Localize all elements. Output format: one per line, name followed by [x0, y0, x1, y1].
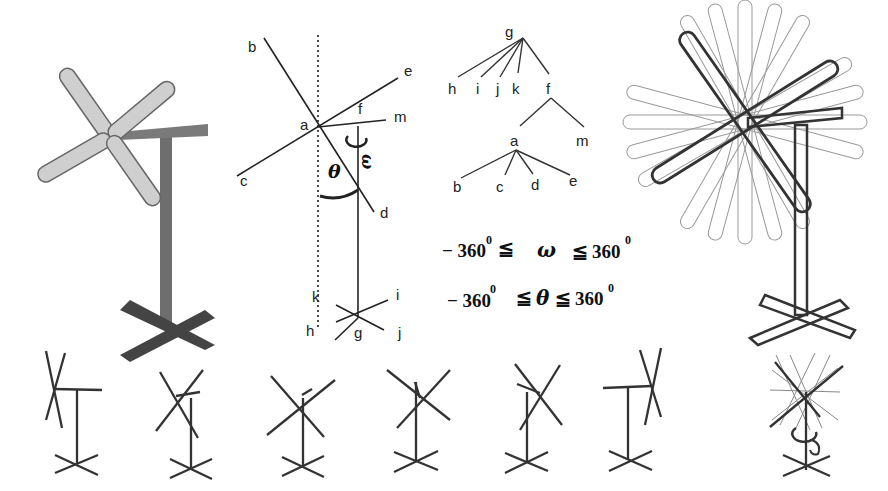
hierarchy-tree: [458, 38, 584, 178]
svg-text:360: 360: [592, 241, 621, 262]
svg-text:i: i: [396, 286, 399, 303]
svg-text:a: a: [300, 116, 309, 133]
figure-canvas: b e a f m c d ω θ k i h g j g h i j k f …: [0, 0, 888, 491]
pose-2: [156, 370, 212, 479]
hierarchy-labels: g h i j k f a m b c d e: [448, 23, 589, 195]
svg-text:h: h: [448, 80, 456, 97]
svg-text:≦: ≦: [516, 287, 532, 308]
svg-text:h: h: [306, 322, 314, 339]
svg-text:m: m: [394, 108, 407, 125]
svg-text:ω: ω: [537, 238, 556, 262]
svg-text:≦: ≦: [572, 241, 588, 262]
svg-text:j: j: [397, 324, 401, 341]
svg-text:g: g: [354, 324, 362, 341]
rotation-overlay: [623, 0, 867, 345]
svg-text:0: 0: [486, 233, 492, 247]
svg-text:≦: ≦: [498, 238, 514, 259]
svg-text:f: f: [546, 80, 551, 97]
svg-text:i: i: [476, 80, 479, 97]
svg-text:0: 0: [490, 282, 496, 296]
svg-text:c: c: [240, 172, 248, 189]
pose-overlay-final: [770, 353, 843, 476]
windmill-model: [35, 65, 215, 362]
pose-1: [46, 351, 102, 475]
joint-labels: b e a f m c d ω θ k i h g j: [240, 38, 412, 341]
theta-constraint: − 360 0 ≦ θ ≦ 360 0: [447, 281, 614, 311]
svg-text:j: j: [495, 80, 499, 97]
svg-text:e: e: [569, 172, 577, 189]
svg-text:d: d: [531, 176, 539, 193]
svg-text:m: m: [576, 132, 589, 149]
svg-text:0: 0: [608, 281, 614, 295]
svg-text:a: a: [510, 132, 519, 149]
svg-text:360: 360: [575, 288, 604, 309]
omega-constraint: − 360 0 ≦ ω ≦ 360 0: [442, 233, 631, 262]
svg-text:k: k: [312, 288, 320, 305]
pose-sequence: [46, 348, 843, 479]
pose-4: [387, 370, 450, 472]
svg-text:b: b: [248, 38, 256, 55]
svg-text:d: d: [380, 204, 388, 221]
svg-text:θ: θ: [328, 160, 341, 182]
svg-text:k: k: [512, 80, 520, 97]
svg-text:c: c: [496, 178, 504, 195]
svg-text:θ: θ: [536, 286, 550, 310]
pose-5: [505, 364, 562, 473]
svg-text:ω: ω: [358, 154, 377, 169]
svg-text:e: e: [404, 62, 412, 79]
svg-text:− 360: − 360: [442, 240, 486, 261]
pose-3: [267, 376, 335, 477]
pose-6: [603, 348, 661, 471]
svg-text:b: b: [453, 178, 461, 195]
svg-text:0: 0: [625, 233, 631, 247]
svg-text:f: f: [358, 100, 363, 117]
svg-text:≦: ≦: [555, 288, 571, 309]
svg-text:− 360: − 360: [447, 290, 491, 311]
svg-text:g: g: [505, 23, 513, 40]
